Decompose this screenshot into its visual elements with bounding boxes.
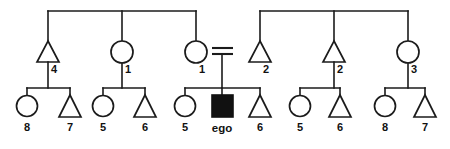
symbol-male-g2-1[interactable] xyxy=(37,41,59,62)
label-g2-2: 1 xyxy=(125,63,131,75)
label-g3-2: 7 xyxy=(67,121,73,133)
label-g3-3: 5 xyxy=(100,121,106,133)
symbol-female-g3-5[interactable] xyxy=(175,96,196,117)
label-g2-6: 3 xyxy=(411,63,417,75)
label-g3-1: 8 xyxy=(24,121,30,133)
label-g3-4: 6 xyxy=(142,121,148,133)
symbol-female-g2-6[interactable] xyxy=(397,41,419,63)
symbol-male-g2-4[interactable] xyxy=(249,41,271,62)
symbol-female-g2-2[interactable] xyxy=(111,41,133,63)
symbol-male-g3-11[interactable] xyxy=(414,95,436,117)
symbol-male-g2-5[interactable] xyxy=(323,41,345,62)
label-g3-5: 5 xyxy=(182,121,188,133)
label-g2-1: 4 xyxy=(51,63,58,75)
pedigree-canvas: 4 1 1 2 2 3 xyxy=(0,0,450,149)
descent-lines-left xyxy=(48,11,196,42)
descent-lines-right xyxy=(260,11,408,42)
label-g3-7: 6 xyxy=(257,121,263,133)
generation-two-labels: 4 1 1 2 2 3 xyxy=(51,63,417,75)
symbol-female-g3-8[interactable] xyxy=(290,96,311,117)
symbol-proband-ego[interactable] xyxy=(212,95,233,117)
symbol-male-g3-9[interactable] xyxy=(329,95,351,117)
label-g3-11: 7 xyxy=(422,121,428,133)
label-g2-3: 1 xyxy=(199,63,205,75)
symbol-female-g2-3[interactable] xyxy=(185,41,207,63)
symbol-male-g3-2[interactable] xyxy=(59,95,81,117)
pedigree-diagram: 4 1 1 2 2 3 xyxy=(0,0,450,149)
parent-stems xyxy=(48,62,408,88)
symbol-male-g3-4[interactable] xyxy=(134,95,156,117)
symbol-male-g3-7[interactable] xyxy=(249,95,271,117)
label-g3-8: 5 xyxy=(297,121,303,133)
symbol-female-g3-3[interactable] xyxy=(93,96,114,117)
symbol-female-g3-1[interactable] xyxy=(17,96,38,117)
label-g3-10: 8 xyxy=(382,121,388,133)
symbol-female-g3-10[interactable] xyxy=(375,96,396,117)
generation-two-symbols xyxy=(37,41,419,63)
generation-three-symbols xyxy=(17,95,437,117)
label-g3-9: 6 xyxy=(337,121,343,133)
mating-symbol-equals xyxy=(212,48,233,88)
label-g2-4: 2 xyxy=(263,63,269,75)
label-g2-5: 2 xyxy=(337,63,343,75)
label-ego: ego xyxy=(212,122,232,134)
generation-three-labels: 8 7 5 6 5 ego 6 5 6 8 7 xyxy=(24,121,428,134)
